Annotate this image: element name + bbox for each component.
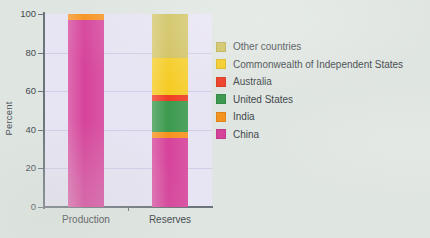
bar-segment	[152, 138, 188, 207]
stacked-bar-chart-figure: Percent Other countriesCommonwealth of I…	[0, 0, 430, 238]
legend-item-label: Other countries	[233, 41, 301, 52]
legend-color-swatch	[216, 42, 226, 52]
legend-item-label: China	[233, 129, 259, 140]
legend-color-swatch	[216, 77, 226, 87]
bar-segment	[152, 58, 188, 95]
legend-item-label: Australia	[233, 76, 272, 87]
y-axis-tick	[38, 168, 43, 169]
bar-segment	[152, 132, 188, 138]
y-axis-tick	[38, 130, 43, 131]
legend-item: United States	[216, 91, 426, 109]
y-axis-tick-label: 20	[0, 162, 36, 173]
y-axis-tick	[38, 53, 43, 54]
bar-segment	[152, 101, 188, 132]
y-axis-tick	[38, 14, 43, 15]
legend-color-swatch	[216, 112, 226, 122]
y-axis-tick-label: 80	[0, 47, 36, 58]
x-axis-category-label: Production	[41, 214, 131, 225]
legend-item-label: Commonwealth of Independent States	[233, 59, 403, 70]
legend-color-swatch	[216, 59, 226, 69]
y-axis-tick-label: 60	[0, 85, 36, 96]
y-axis-tick-label: 100	[0, 8, 36, 19]
bar-segment	[68, 14, 104, 20]
y-axis-tick	[38, 91, 43, 92]
bar-production	[68, 14, 104, 207]
legend-item-label: United States	[233, 94, 293, 105]
legend-item: Commonwealth of Independent States	[216, 56, 426, 74]
legend-item: Australia	[216, 73, 426, 91]
bar-segment	[68, 20, 104, 207]
x-axis-tick	[128, 206, 129, 211]
y-axis-tick	[38, 207, 43, 208]
bar-reserves	[152, 14, 188, 207]
y-axis-line	[43, 12, 45, 209]
y-axis-tick-label: 40	[0, 124, 36, 135]
bar-segment	[152, 95, 188, 101]
legend-item: Other countries	[216, 38, 426, 56]
x-axis-category-label: Reserves	[125, 214, 215, 225]
y-axis-tick-label: 0	[0, 201, 36, 212]
legend-color-swatch	[216, 94, 226, 104]
legend-item: India	[216, 108, 426, 126]
bar-segment	[152, 14, 188, 58]
legend-item-label: India	[233, 111, 255, 122]
legend-color-swatch	[216, 129, 226, 139]
legend-item: China	[216, 126, 426, 144]
legend: Other countriesCommonwealth of Independe…	[216, 38, 426, 143]
